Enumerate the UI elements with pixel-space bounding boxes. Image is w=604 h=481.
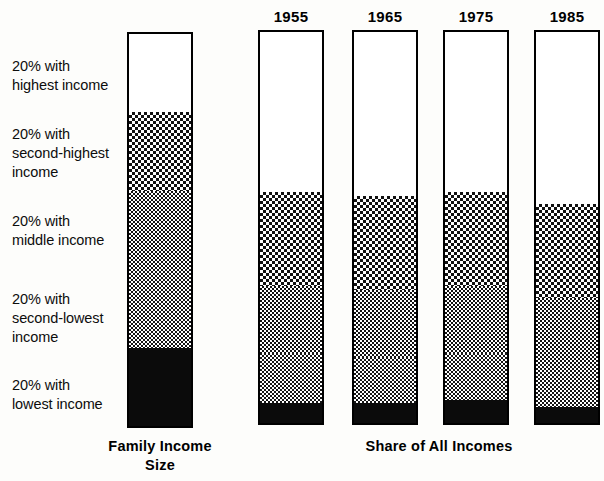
year-bar-1975 xyxy=(443,30,509,425)
bar-1975-segment-second-highest xyxy=(445,192,507,286)
bar-1985-segment-highest xyxy=(536,32,598,204)
legend-segment-second-lowest xyxy=(129,269,191,347)
quintile-label-middle: 20% with middle income xyxy=(12,212,130,250)
family-income-size-bar xyxy=(127,32,193,428)
left-caption: Family Income Size xyxy=(100,437,220,475)
quintile-label-second-lowest: 20% with second-lowest income xyxy=(12,290,130,347)
bar-1985-segment-second-highest xyxy=(536,204,598,298)
year-bar-1965 xyxy=(352,30,418,425)
bar-1965-segment-lowest xyxy=(354,403,416,423)
bar-1955-segment-second-highest xyxy=(260,192,322,286)
bar-1985-segment-second-lowest xyxy=(536,364,598,407)
bar-1985-segment-middle xyxy=(536,298,598,364)
year-bar-1955 xyxy=(258,30,324,425)
year-bar-1985 xyxy=(534,30,600,425)
bar-1965-segment-second-highest xyxy=(354,196,416,290)
bar-1975-segment-lowest xyxy=(445,400,507,423)
year-label-1975: 1975 xyxy=(443,8,509,25)
bar-1975-segment-second-lowest xyxy=(445,353,507,400)
bar-1965-segment-middle xyxy=(354,290,416,356)
right-caption: Share of All Incomes xyxy=(349,437,529,456)
bar-1955-segment-second-lowest xyxy=(260,353,322,404)
bar-1955-segment-highest xyxy=(260,32,322,192)
bar-1955-segment-middle xyxy=(260,286,322,352)
legend-segment-middle xyxy=(129,191,191,269)
bar-1965-segment-second-lowest xyxy=(354,357,416,404)
year-label-1955: 1955 xyxy=(258,8,324,25)
legend-segment-lowest xyxy=(129,348,191,426)
bar-1975-segment-middle xyxy=(445,286,507,352)
bar-1985-segment-lowest xyxy=(536,407,598,423)
bar-1975-segment-highest xyxy=(445,32,507,192)
legend-segment-second-highest xyxy=(129,112,191,190)
year-label-1985: 1985 xyxy=(534,8,600,25)
legend-segment-highest xyxy=(129,34,191,112)
bar-1955-segment-lowest xyxy=(260,403,322,423)
bar-1965-segment-highest xyxy=(354,32,416,196)
year-label-1965: 1965 xyxy=(352,8,418,25)
quintile-label-second-highest: 20% with second-highest income xyxy=(12,125,130,182)
quintile-label-lowest: 20% with lowest income xyxy=(12,376,130,414)
figure-canvas: 20% with highest income 20% with second-… xyxy=(0,0,604,481)
quintile-label-highest: 20% with highest income xyxy=(12,57,124,95)
